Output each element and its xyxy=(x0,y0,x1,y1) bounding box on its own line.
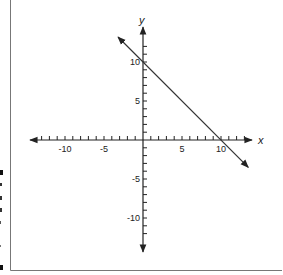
y-tick-label: 5 xyxy=(135,96,140,106)
coordinate-plane: -10-5510105-5-10 x y xyxy=(0,0,282,275)
y-tick-label: -10 xyxy=(127,213,140,223)
x-tick-label: -10 xyxy=(58,144,71,154)
y-tick-label: -5 xyxy=(132,174,140,184)
x-tick-label: -5 xyxy=(100,144,108,154)
chart-frame xyxy=(11,0,283,271)
x-axis-label: x xyxy=(257,134,264,146)
y-tick-label: 10 xyxy=(130,57,140,67)
x-tick-label: 10 xyxy=(216,144,226,154)
y-axis-label: y xyxy=(138,14,146,26)
x-tick-label: 5 xyxy=(179,144,184,154)
edge-marks xyxy=(0,170,3,270)
